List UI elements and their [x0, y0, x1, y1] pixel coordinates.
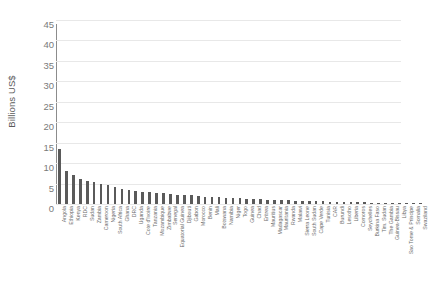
x-label-slot: Sudan [84, 206, 91, 294]
bar-slot [313, 20, 320, 204]
bar [343, 202, 346, 204]
bar [370, 203, 373, 204]
bar [121, 189, 124, 204]
x-label-slot: Senegal [167, 206, 174, 294]
bar-slot [368, 20, 375, 204]
bar-slot [181, 20, 188, 204]
x-label-slot: Tim. Sudan [375, 206, 382, 294]
bar [183, 195, 186, 204]
bar [107, 185, 110, 204]
bar [419, 203, 422, 204]
bar-slot [347, 20, 354, 204]
bar-slot [70, 20, 77, 204]
x-label-slot: Cape Verde [313, 206, 320, 294]
bar-slot [125, 20, 132, 204]
bar [315, 201, 318, 204]
bar [225, 198, 228, 204]
x-label-slot: Equatorial Guinea [174, 206, 181, 294]
bar-slot [84, 20, 91, 204]
bar-slot [167, 20, 174, 204]
bar-slot [216, 20, 223, 204]
x-label-slot: Guinea [243, 206, 250, 294]
x-label-slot: Tunisia [320, 206, 327, 294]
x-label-slot: Botswana [216, 206, 223, 294]
bar-slot [417, 20, 424, 204]
bar [412, 203, 415, 204]
bar [259, 199, 262, 204]
bar-slot [375, 20, 382, 204]
y-tick-label: 35 [43, 59, 54, 70]
bar-slot [320, 20, 327, 204]
x-label-slot: Benin [202, 206, 209, 294]
y-axis-title-text: Billions US$ [6, 75, 17, 127]
bar-slot [285, 20, 292, 204]
bar [79, 179, 82, 204]
bar [72, 175, 75, 204]
bar [169, 194, 172, 204]
bar [356, 202, 359, 204]
x-label-slot: Burkina Faso [368, 206, 375, 294]
bar-slot [56, 20, 63, 204]
x-label-slot: Uganda [132, 206, 139, 294]
bar-slot [223, 20, 230, 204]
x-label-slot: Ethiopia [63, 206, 70, 294]
bar [336, 202, 339, 204]
bar-slot [160, 20, 167, 204]
bar-slot [264, 20, 271, 204]
bar [86, 181, 89, 204]
y-tick-label: 5 [49, 182, 54, 193]
x-label-slot: Lesotho [340, 206, 347, 294]
bar [301, 201, 304, 204]
bar-slot [396, 20, 403, 204]
bar-series [56, 20, 401, 204]
bar-slot [306, 20, 313, 204]
x-label-slot: Ghana [118, 206, 125, 294]
x-label-slot: CAR [327, 206, 334, 294]
bar [363, 202, 366, 204]
bar [232, 198, 235, 204]
bar [197, 196, 200, 204]
bar-slot [77, 20, 84, 204]
bar-slot [410, 20, 417, 204]
x-label-slot: Nigeria [105, 206, 112, 294]
bar [273, 200, 276, 204]
x-label-slot: Djibouti [181, 206, 188, 294]
gridline [56, 204, 401, 205]
bar-slot [382, 20, 389, 204]
bar-slot [334, 20, 341, 204]
bar [322, 201, 325, 204]
bar-slot [91, 20, 98, 204]
bar [287, 200, 290, 204]
x-label-slot: Mozambique [153, 206, 160, 294]
x-label-slot: Somalia [410, 206, 417, 294]
bar [398, 203, 401, 204]
y-tick-label: 25 [43, 100, 54, 111]
x-label-slot: Zimbabwe [160, 206, 167, 294]
y-tick-label: 45 [43, 19, 54, 30]
x-label-slot: Mauritania [278, 206, 285, 294]
y-axis-tick-labels: 454035302520151050 [24, 20, 54, 204]
bar-slot [403, 20, 410, 204]
x-label-slot: Mauritius [264, 206, 271, 294]
x-label-slot: Madagascar [271, 206, 278, 294]
bar-slot [354, 20, 361, 204]
x-label-slot: Kenya [70, 206, 77, 294]
bar-slot [243, 20, 250, 204]
x-label-slot: Morocco [195, 206, 202, 294]
bar-slot [63, 20, 70, 204]
bar-slot [132, 20, 139, 204]
bar [329, 202, 332, 204]
bar [128, 190, 131, 204]
x-label-slot: Tanzania [146, 206, 153, 294]
x-label-slot: Mali [209, 206, 216, 294]
bar-slot [236, 20, 243, 204]
bar-slot [209, 20, 216, 204]
bar [100, 184, 103, 204]
bar-slot [292, 20, 299, 204]
bar [162, 193, 165, 204]
bar-slot [278, 20, 285, 204]
x-label-slot: Swaziland [417, 206, 424, 294]
bar-slot [118, 20, 125, 204]
bar-slot [299, 20, 306, 204]
